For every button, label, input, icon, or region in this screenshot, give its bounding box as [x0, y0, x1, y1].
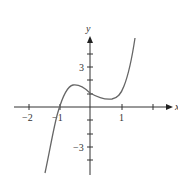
- y-axis-arrow-icon: [87, 36, 93, 43]
- y-axis-label: y: [85, 23, 91, 34]
- y-tick-label-neg3: −3: [73, 142, 84, 153]
- x-tick-label-neg2: −2: [22, 112, 33, 123]
- x-tick-label-1: 1: [119, 112, 124, 123]
- x-axis-arrow-icon: [166, 104, 173, 110]
- cubic-function-graph: y x −2 −1 1 3 −3: [0, 0, 178, 175]
- y-tick-label-3: 3: [79, 62, 84, 73]
- x-axis-label: x: [174, 101, 178, 112]
